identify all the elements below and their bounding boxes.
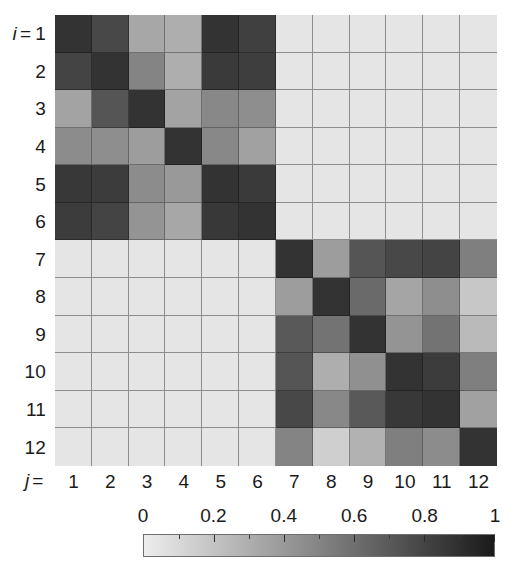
matrix-cell-3-5	[202, 90, 239, 128]
matrix-cell-12-10	[386, 428, 423, 466]
matrix-cell-6-1	[55, 203, 92, 241]
matrix-cell-3-11	[423, 90, 460, 128]
colorbar-tick-label-1: 1	[490, 503, 501, 529]
matrix-cell-7-11	[423, 240, 460, 278]
matrix-cell-3-10	[386, 90, 423, 128]
row-label-text: 10	[24, 362, 46, 381]
row-label-text: 4	[35, 137, 46, 156]
matrix-cell-6-11	[423, 203, 460, 241]
matrix-cell-5-5	[202, 165, 239, 203]
matrix-cell-5-4	[165, 165, 202, 203]
matrix-cell-7-1	[55, 240, 92, 278]
row-label-4: 4	[0, 128, 51, 166]
matrix-cell-9-4	[165, 316, 202, 354]
matrix-cell-10-3	[129, 353, 166, 391]
matrix-cell-10-7	[276, 353, 313, 391]
column-label-5: 5	[202, 468, 239, 494]
matrix-cell-6-3	[129, 203, 166, 241]
matrix-cell-8-8	[313, 278, 350, 316]
matrix-cell-6-2	[92, 203, 129, 241]
row-label-text: 12	[24, 438, 46, 457]
colorbar-tick-0.6	[354, 535, 355, 542]
column-axis-variable: j=	[25, 468, 43, 494]
matrix-cell-10-5	[202, 353, 239, 391]
matrix-cell-7-12	[460, 240, 497, 278]
col-axis-equals-sign: =	[32, 470, 43, 492]
row-label-9: 9	[0, 316, 51, 354]
matrix-cell-12-8	[313, 428, 350, 466]
row-axis-labels: i=123456789101112	[0, 15, 51, 466]
matrix-cell-6-10	[386, 203, 423, 241]
matrix-cell-3-6	[239, 90, 276, 128]
matrix-cell-5-10	[386, 165, 423, 203]
matrix-cell-5-6	[239, 165, 276, 203]
matrix-cell-11-1	[55, 391, 92, 429]
matrix-cell-1-7	[276, 15, 313, 53]
matrix-cell-10-1	[55, 353, 92, 391]
matrix-cell-12-5	[202, 428, 239, 466]
matrix-cell-4-10	[386, 128, 423, 166]
matrix-cell-11-9	[350, 391, 387, 429]
colorbar-minor-tick	[179, 535, 180, 539]
matrix-cell-10-8	[313, 353, 350, 391]
matrix-cell-1-4	[165, 15, 202, 53]
matrix-cell-11-7	[276, 391, 313, 429]
column-label-7: 7	[276, 468, 313, 494]
matrix-cell-11-10	[386, 391, 423, 429]
matrix-cell-12-11	[423, 428, 460, 466]
matrix-cell-8-5	[202, 278, 239, 316]
matrix-cell-8-1	[55, 278, 92, 316]
matrix-cell-6-6	[239, 203, 276, 241]
matrix-cell-2-5	[202, 53, 239, 91]
matrix-cell-5-12	[460, 165, 497, 203]
colorbar-tick-label-0.4: 0.4	[271, 503, 297, 529]
matrix-cell-6-12	[460, 203, 497, 241]
matrix-cell-2-7	[276, 53, 313, 91]
matrix-cell-3-12	[460, 90, 497, 128]
matrix-cell-12-1	[55, 428, 92, 466]
matrix-cell-9-6	[239, 316, 276, 354]
matrix-cell-9-9	[350, 316, 387, 354]
row-label-5: 5	[0, 165, 51, 203]
matrix-cell-9-3	[129, 316, 166, 354]
matrix-cell-1-10	[386, 15, 423, 53]
column-label-1: 1	[55, 468, 92, 494]
matrix-cell-9-12	[460, 316, 497, 354]
matrix-cell-12-3	[129, 428, 166, 466]
colorbar-minor-tick	[459, 535, 460, 539]
colorbar-minor-tick	[319, 535, 320, 539]
row-label-text: 3	[35, 99, 46, 118]
matrix-cell-10-2	[92, 353, 129, 391]
column-label-2: 2	[92, 468, 129, 494]
matrix-cell-8-2	[92, 278, 129, 316]
matrix-cell-5-2	[92, 165, 129, 203]
matrix-cell-5-3	[129, 165, 166, 203]
row-label-3: 3	[0, 90, 51, 128]
matrix-cell-1-6	[239, 15, 276, 53]
matrix-cell-7-7	[276, 240, 313, 278]
matrix-cell-5-7	[276, 165, 313, 203]
matrix-cell-2-2	[92, 53, 129, 91]
matrix-cell-1-12	[460, 15, 497, 53]
column-label-12: 12	[460, 468, 497, 494]
matrix-cell-2-9	[350, 53, 387, 91]
matrix-cell-11-6	[239, 391, 276, 429]
matrix-cell-4-9	[350, 128, 387, 166]
matrix-cell-8-12	[460, 278, 497, 316]
matrix-cell-4-3	[129, 128, 166, 166]
column-axis-labels: 123456789101112	[55, 468, 497, 494]
colorbar-tick-0.8	[424, 535, 425, 542]
matrix-cell-6-8	[313, 203, 350, 241]
row-label-11: 11	[0, 391, 51, 429]
matrix-cell-7-8	[313, 240, 350, 278]
matrix-cell-8-7	[276, 278, 313, 316]
matrix-cell-10-6	[239, 353, 276, 391]
matrix-cell-9-5	[202, 316, 239, 354]
matrix-cell-9-1	[55, 316, 92, 354]
column-label-8: 8	[313, 468, 350, 494]
column-label-9: 9	[350, 468, 387, 494]
matrix-cell-4-11	[423, 128, 460, 166]
col-axis-variable-symbol: j	[25, 470, 29, 492]
matrix-cell-2-4	[165, 53, 202, 91]
row-label-1: i=1	[0, 15, 51, 53]
